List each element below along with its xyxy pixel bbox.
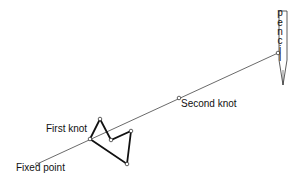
- pencil-letter: l: [276, 53, 284, 63]
- second-knot-label: Second knot: [181, 99, 237, 109]
- vertex-marker: [98, 117, 102, 121]
- string-line: [37, 53, 278, 164]
- diagram-canvas: [0, 0, 306, 181]
- first-knot-label: First knot: [46, 124, 87, 134]
- vertex-marker: [88, 137, 92, 141]
- vertex-marker: [125, 162, 129, 166]
- fixed-point-label: Fixed point: [16, 163, 65, 173]
- vertex-marker: [129, 129, 133, 133]
- vertex-marker: [109, 138, 113, 142]
